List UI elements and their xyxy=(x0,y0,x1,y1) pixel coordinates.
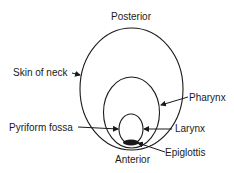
label-larynx: Larynx xyxy=(175,123,205,134)
label-epiglottis: Epiglottis xyxy=(165,147,206,158)
skin-pointer xyxy=(72,73,80,75)
epiglottis-shape xyxy=(123,140,139,146)
neck-outline xyxy=(80,28,183,150)
pharynx-outline xyxy=(104,77,160,148)
label-pharynx: Pharynx xyxy=(189,92,226,103)
label-pyriform-fossa: Pyriform fossa xyxy=(9,122,73,133)
pyriform-pointer xyxy=(78,127,118,129)
label-skin-of-neck: Skin of neck xyxy=(13,67,67,78)
label-posterior: Posterior xyxy=(111,11,151,22)
epiglottis-pointer xyxy=(138,143,165,152)
label-anterior: Anterior xyxy=(115,154,150,165)
pharynx-pointer xyxy=(161,97,188,105)
